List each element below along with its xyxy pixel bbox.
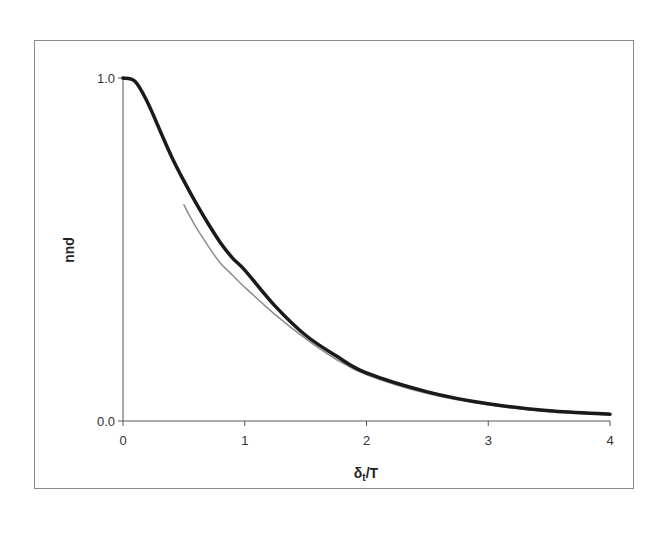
- x-ticks: 01234: [119, 421, 613, 448]
- y-tick-label: 0.0: [97, 414, 115, 429]
- y-axis-title: ρuu: [63, 237, 79, 263]
- x-axis-title: δt/T: [354, 465, 379, 483]
- y-tick-label: 1.0: [97, 71, 115, 86]
- x-tick-label: 4: [606, 433, 613, 448]
- y-ticks: 0.01.0: [97, 71, 123, 429]
- x-tick-label: 2: [363, 433, 370, 448]
- chart: 0.01.0 01234 δt/T ρuu: [0, 0, 646, 539]
- plot-area: 0.01.0 01234: [97, 71, 614, 448]
- series-layer: [123, 78, 610, 415]
- x-tick-label: 0: [119, 433, 126, 448]
- series-line-black: [123, 78, 610, 414]
- x-tick-label: 1: [241, 433, 248, 448]
- x-tick-label: 3: [485, 433, 492, 448]
